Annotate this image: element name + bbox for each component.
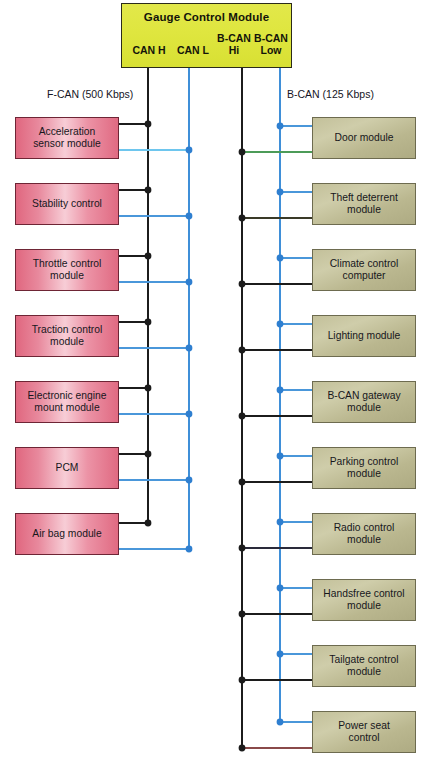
module-b-can-gateway-module: B-CAN gateway module [312, 381, 416, 423]
module-label-line1: Traction control [32, 324, 103, 335]
module-label-line1: Radio control [334, 522, 395, 533]
module-label-line1: Lighting module [328, 330, 401, 341]
module-tailgate-control-module: Tailgate control module [312, 645, 416, 687]
stubs-bcan-hi [242, 152, 312, 748]
module-pcm: PCM [15, 447, 119, 489]
caption-b-can-bus: B-CAN (125 Kbps) [287, 88, 374, 100]
module-lighting-module: Lighting module [312, 315, 416, 357]
stubs-can-l [119, 150, 189, 549]
module-acceleration-sensor-module: Acceleration sensor module [15, 117, 119, 159]
module-climate-control-computer: Climate control computer [312, 249, 416, 291]
module-label-line1: Throttle control [33, 258, 102, 269]
module-throttle-control-module: Throttle control module [15, 249, 119, 291]
module-label-line1: Parking control [330, 456, 399, 467]
module-power-seat-control: Power seat control [312, 711, 416, 753]
module-label-line1: PCM [56, 462, 79, 473]
caption-f-can-bus: F-CAN (500 Kbps) [47, 88, 133, 100]
module-label-line2: module [347, 204, 381, 215]
module-label-line1: Theft deterrent [330, 192, 398, 203]
module-parking-control-module: Parking control module [312, 447, 416, 489]
port-label-bcan-low-line1: B-CAN [254, 32, 288, 44]
diagram-canvas: Gauge Control Module CAN H CAN L B-CAN H… [0, 0, 428, 766]
port-label-bcan-hi-line1: B-CAN [217, 32, 251, 44]
port-label-can-l-text: CAN L [177, 44, 209, 56]
module-traction-control-module: Traction control module [15, 315, 119, 357]
module-label-line1: Climate control [330, 258, 399, 269]
module-label-line2: computer [343, 270, 386, 281]
module-radio-control-module: Radio control module [312, 513, 416, 555]
port-label-bcan-low-line2: Low [261, 44, 282, 56]
stubs-bcan-low [280, 126, 312, 722]
stubs-can-h [119, 124, 148, 523]
module-label-line1: Stability control [32, 198, 102, 209]
module-label-line2: module [347, 468, 381, 479]
gauge-control-module-box: Gauge Control Module CAN H CAN L B-CAN H… [121, 3, 292, 68]
module-label-line1: Air bag module [32, 528, 101, 539]
gauge-control-module-title: Gauge Control Module [122, 11, 291, 23]
module-label-line2: module [50, 336, 84, 347]
module-label-line2: control [349, 732, 380, 743]
port-label-can-h-text: CAN H [132, 44, 165, 56]
module-door-module: Door module [312, 117, 416, 159]
module-label-line1: Electronic engine [28, 390, 107, 401]
module-label-line2: module [347, 600, 381, 611]
module-label-line1: Tailgate control [329, 654, 398, 665]
module-label-line1: Door module [335, 132, 394, 143]
module-label-line2: module [347, 666, 381, 677]
module-label-line1: Handsfree control [323, 588, 404, 599]
module-stability-control: Stability control [15, 183, 119, 225]
module-label-line2: module [347, 534, 381, 545]
port-label-bcan-low: B-CAN Low [249, 33, 293, 56]
module-handsfree-control-module: Handsfree control module [312, 579, 416, 621]
module-label-line2: sensor module [33, 138, 101, 149]
port-label-bcan-hi-line2: Hi [229, 44, 240, 56]
module-label-line2: module [50, 270, 84, 281]
module-label-line1: Acceleration [39, 126, 96, 137]
module-air-bag-module: Air bag module [15, 513, 119, 555]
module-theft-deterrent-module: Theft deterrent module [312, 183, 416, 225]
port-label-can-l: CAN L [169, 45, 217, 57]
module-label-line1: Power seat [338, 720, 390, 731]
module-electronic-engine-mount-module: Electronic engine mount module [15, 381, 119, 423]
module-label-line1: B-CAN gateway [327, 390, 400, 401]
module-label-line2: module [347, 402, 381, 413]
module-label-line2: mount module [34, 402, 99, 413]
port-label-can-h: CAN H [125, 45, 173, 57]
